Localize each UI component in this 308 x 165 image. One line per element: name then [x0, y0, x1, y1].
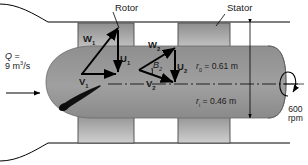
- inner-radius-label: ri = 0.46 m: [196, 97, 236, 108]
- flow-rate-unit: m3/s: [10, 61, 30, 71]
- flow-rate-equals: =: [15, 51, 20, 61]
- turbomachine-diagram: Rotor Stator Q = 9 m3/s r0 = 0.61 m ri =…: [0, 0, 308, 165]
- vector-label-u2: U2: [177, 62, 187, 74]
- rotor-callout-label: Rotor: [115, 3, 138, 13]
- outer-radius-label: r0 = 0.61 m: [196, 62, 238, 73]
- vector-label-w1: W1: [83, 34, 95, 46]
- vector-label-w2: W2: [148, 40, 160, 52]
- rotation-speed-label: 600 rpm: [288, 105, 303, 123]
- vector-label-v2: V2: [146, 79, 156, 91]
- flow-rate-label: Q = 9 m3/s: [5, 52, 30, 72]
- beta2-angle-label: B2: [153, 61, 162, 73]
- vector-label-u1: U1: [120, 54, 130, 66]
- vector-label-v1: V1: [79, 77, 89, 89]
- rotation-speed-unit: rpm: [288, 114, 303, 123]
- stator-callout-label: Stator: [227, 3, 252, 13]
- flow-rate-symbol: Q: [5, 51, 12, 61]
